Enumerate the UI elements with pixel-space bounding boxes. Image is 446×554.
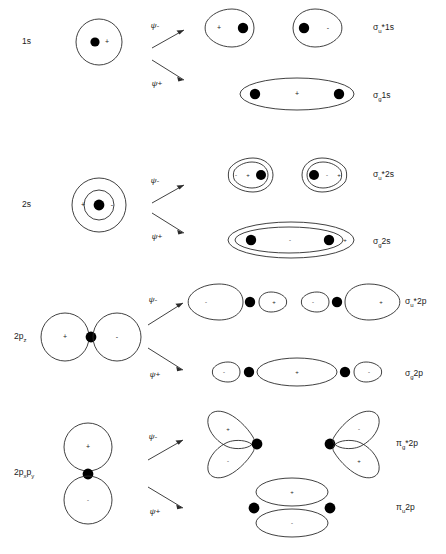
arrow-psi-minus-2px: ψ- [148,432,183,460]
arrow-psi-plus-2px: ψ+ [148,487,183,516]
lobe-sign-plus: + [290,489,294,495]
nucleus-dot [309,170,319,180]
lobe-sign-plus: + [272,299,276,305]
sign-plus: + [63,333,67,340]
psi-plus-label: ψ+ [150,507,161,516]
mo-sigma-g-2p: - + - σg2p [212,358,423,386]
nucleus-dot [244,367,254,377]
row-2pz: 2pz + - ψ- ψ+ - [14,284,427,386]
mo-label-sigma-u-star-2s: σu*2s [373,169,394,180]
mo-sigma-u-star-2p: - + - + σu*2p [188,284,426,320]
mo-sigma-g-2s: - + σg2s [228,222,391,258]
nucleus-dot [83,469,94,480]
psi-minus-label: ψ- [151,21,160,30]
lobe-sign-plus: + [217,24,221,31]
row-label-2s: 2s [22,199,31,209]
psi-minus-label: ψ- [149,295,158,304]
row-2s: 2s + - ψ- ψ+ - [22,158,394,258]
nucleus-dot [325,439,336,450]
nucleus-dot [245,297,255,307]
arrow-psi-plus-2pz: ψ+ [148,348,183,379]
atomic-orbital-2s: + - [72,178,126,232]
row-label-2pz: 2pz [14,331,26,342]
mo-diagram-canvas: 1s + ψ- ψ+ + [0,0,446,554]
sign-minus: - [87,497,89,503]
lobe-sign-plus: + [295,369,299,375]
mo-sigma-u-star-1s: + - σu*1s [205,9,394,47]
lobe-sign-plus: + [379,299,383,305]
lobe-sign-plus: + [343,237,347,243]
nucleus-dot [249,503,260,514]
row-2px-2py: 2pxpy + - ψ- ψ+ + [14,411,418,537]
arrow-psi-plus-1s: ψ+ [152,60,184,88]
lobe-sign-minus: - [327,24,330,31]
psi-minus-label: ψ- [151,176,160,185]
mo-pi-u-2p: + - πu2p [249,478,415,537]
nucleus-dot [334,89,344,99]
lobe-sign-plus: + [295,90,299,97]
mo-label-sigma-g-2p: σg2p [405,368,423,379]
mo-label-pi-g-star-2p: πg*2p [396,438,418,449]
nucleus-dot [94,200,105,211]
psi-minus-label: ψ- [149,432,158,441]
mo-label-pi-u-2p: πu2p [396,502,415,513]
lobe-sign-plus: + [226,426,230,432]
lobe-sign-plus: + [337,172,341,178]
psi-plus-label: ψ+ [152,79,163,88]
arrow-psi-minus-2s: ψ- [151,176,184,203]
row-label-2px-2py: 2pxpy [14,467,34,478]
nucleus-dot [238,23,248,33]
psi-plus-label: ψ+ [150,370,161,379]
sign-minus: - [116,333,119,340]
nucleus-dot [332,297,342,307]
nucleus-dot [246,235,256,245]
nucleus-dot [324,235,334,245]
lobe-sign-minus: - [368,369,370,375]
lobe-sign-minus: - [291,520,293,526]
nucleus-dot [86,332,97,343]
nucleus-dot [340,367,350,377]
lobe-sign-minus: - [235,172,237,178]
lobe-sign-minus: - [326,172,328,178]
mo-label-sigma-u-star-1s: σu*1s [373,22,394,33]
mo-label-sigma-g-1s: σg1s [373,90,391,101]
nucleus-dot [299,23,309,33]
nucleus-dot [250,89,260,99]
nucleus-dot [252,439,263,450]
lobe-sign-plus: + [246,172,250,178]
arrow-psi-plus-2s: ψ+ [152,213,184,241]
arrow-psi-minus-2pz: ψ- [148,295,183,325]
atomic-orbital-2px-2py: + - [64,423,112,524]
psi-plus-label: ψ+ [152,232,163,241]
atomic-orbital-2pz: + - [41,313,141,361]
sign-plus: + [86,443,90,450]
arrow-psi-minus-1s: ψ- [151,21,184,48]
lobe-sign-minus: - [205,299,207,305]
mo-label-sigma-u-star-2p: σu*2p [405,296,427,307]
lobe-sign-minus: - [358,426,360,432]
nucleus-dot [90,37,99,46]
lobe-sign-minus: - [223,369,225,375]
nucleus-dot [325,503,336,514]
row-1s: 1s + ψ- ψ+ + [22,9,394,110]
mo-label-sigma-g-2s: σg2s [373,236,391,247]
lobe-sign-minus: - [289,237,291,243]
lobe-sign-minus: - [227,458,229,464]
row-label-1s: 1s [22,36,31,46]
lobe-sign-minus: - [312,299,314,305]
lobe-sign-plus: + [357,458,361,464]
mo-pi-g-star-2p: + - - + πg*2p [208,411,418,478]
sign-plus: + [105,38,109,45]
mo-sigma-g-1s: + σg1s [240,78,391,110]
mo-sigma-u-star-2s: - + - + σu*2s [228,158,394,192]
sign-plus: + [81,201,85,208]
nucleus-dot [256,170,266,180]
atomic-orbital-1s: + [76,19,122,65]
